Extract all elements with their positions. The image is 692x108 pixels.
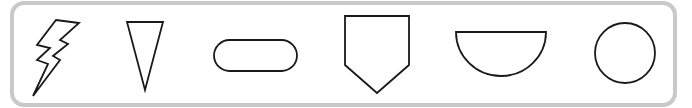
semicircle-icon [456,32,546,76]
oval-icon [214,40,297,71]
shape-row: Lightning bolt Inverted triangle Oval Pe… [0,0,692,108]
lightning-bolt-icon [33,20,79,96]
circle-icon [595,23,655,83]
pentagon-icon [345,16,409,93]
triangle-icon [127,22,163,90]
